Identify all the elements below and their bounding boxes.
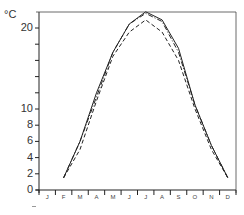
x-tick-label: N bbox=[205, 194, 217, 200]
y-axis-ticks bbox=[35, 28, 39, 190]
series-dashdot bbox=[64, 13, 228, 177]
y-tick-label: 0 bbox=[3, 183, 33, 195]
x-tick-label: A bbox=[156, 194, 168, 200]
x-tick-label: S bbox=[173, 194, 185, 200]
line-chart bbox=[0, 0, 244, 215]
series-solid bbox=[64, 12, 228, 178]
y-tick-label: 10 bbox=[3, 102, 33, 114]
x-tick-label: J bbox=[123, 194, 135, 200]
x-tick-label: M bbox=[107, 194, 119, 200]
y-tick-label: 6 bbox=[3, 134, 33, 146]
y-tick-label: 4 bbox=[3, 151, 33, 163]
plot-frame bbox=[36, 12, 236, 193]
x-tick-label: J bbox=[41, 194, 53, 200]
y-tick-label: 8 bbox=[3, 118, 33, 130]
y-tick-label: 2 bbox=[3, 167, 33, 179]
x-tick-label: J bbox=[140, 194, 152, 200]
series-dashed bbox=[64, 20, 228, 178]
y-axis-unit: °C bbox=[4, 8, 16, 20]
y-tick-label: 20 bbox=[3, 21, 33, 33]
data-lines bbox=[64, 12, 228, 178]
x-tick-label: A bbox=[90, 194, 102, 200]
x-tick-label: F bbox=[58, 194, 70, 200]
x-tick-label: D bbox=[222, 194, 234, 200]
x-tick-label: O bbox=[189, 194, 201, 200]
x-tick-label: M bbox=[74, 194, 86, 200]
stray-mark bbox=[32, 206, 36, 207]
